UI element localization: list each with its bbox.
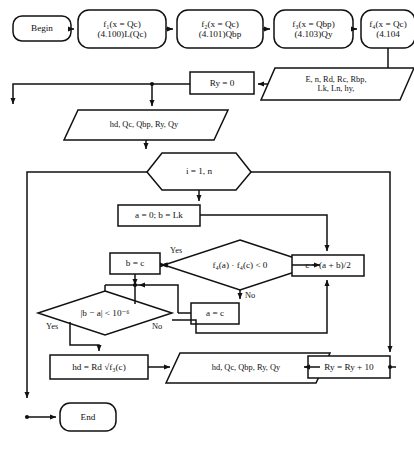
junction-dot-rightbus	[388, 365, 392, 369]
shape-end	[60, 403, 116, 431]
shape-output-top	[64, 110, 228, 140]
shape-f2	[177, 10, 263, 48]
edge-ryinit-left-bus	[13, 84, 152, 104]
shape-ry-init	[190, 72, 254, 94]
shape-loop	[147, 153, 251, 190]
junction-dot-loopleft	[25, 415, 29, 419]
junction-dot-bassign	[133, 283, 137, 287]
shape-f3	[274, 10, 353, 48]
flowchart-shapes-and-connectors	[0, 0, 414, 449]
edge-initab-to-cmid	[200, 215, 327, 251]
shape-input-params	[261, 68, 414, 100]
shape-f4	[361, 10, 414, 48]
flowchart-canvas: Begin f₁(x = Qc) (4.100)L(Qc) f₂(x = Qc)…	[0, 0, 414, 449]
shape-output-bottom	[166, 353, 330, 383]
shape-ry-increment	[308, 356, 390, 378]
junction-dot-ryinit	[150, 82, 154, 86]
shape-f1	[78, 10, 166, 48]
shape-b-assign	[110, 253, 160, 274]
edge-ryinit-to-outputtop	[152, 84, 190, 106]
shape-a-assign	[191, 303, 239, 324]
shape-hd-calc	[50, 355, 148, 379]
shape-tol-test	[38, 291, 172, 335]
shape-begin	[13, 16, 71, 41]
shape-init-ab	[118, 205, 200, 226]
